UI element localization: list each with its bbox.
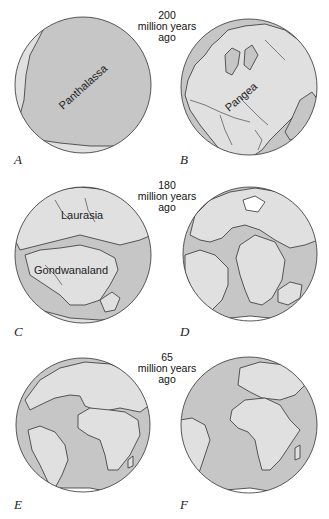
map-label-laurasia: Laurasia: [61, 209, 104, 221]
panel-label-d: D: [180, 324, 189, 340]
continental-drift-figure: Panthalassa Pangea: [0, 0, 329, 519]
panel-label-a: A: [14, 152, 22, 168]
map-label-gondwanaland: Gondwanaland: [34, 264, 108, 276]
era-suffix: ago: [127, 32, 207, 43]
era-suffix: ago: [127, 202, 207, 213]
panel-label-c: C: [14, 324, 23, 340]
era-label-180: 180 million years ago: [127, 180, 207, 213]
era-label-200: 200 million years ago: [127, 10, 207, 43]
panel-label-b: B: [180, 152, 188, 168]
panel-label-e: E: [14, 497, 22, 513]
panel-label-f: F: [180, 497, 188, 513]
era-suffix: ago: [127, 374, 207, 385]
era-label-65: 65 million years ago: [127, 352, 207, 385]
